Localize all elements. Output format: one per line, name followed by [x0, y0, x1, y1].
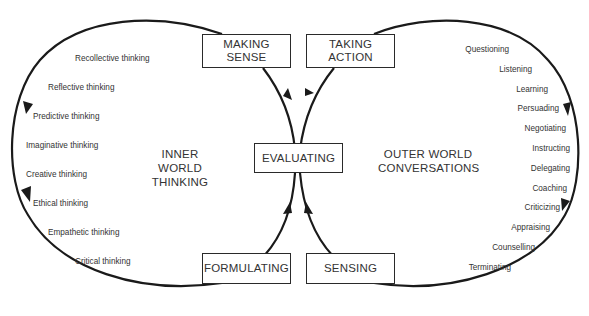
- left-item: Imaginative thinking: [26, 141, 98, 150]
- left-item: Critical thinking: [75, 257, 131, 266]
- left-item: Empathetic thinking: [48, 228, 119, 237]
- making-sense-label-line1: MAKING: [223, 38, 270, 51]
- evaluating-label: EVALUATING: [262, 152, 335, 165]
- taking-action-box: TAKING ACTION: [306, 34, 395, 68]
- left-item: Ethical thinking: [33, 199, 88, 208]
- inner-world-heading: INNER WORLD THINKING: [140, 147, 220, 189]
- taking-action-label-line1: TAKING: [329, 38, 372, 51]
- right-item: Persuading: [518, 104, 559, 113]
- arrow-icon: [283, 88, 292, 100]
- sensing-box: SENSING: [306, 253, 395, 284]
- right-item: Negotiating: [525, 124, 566, 133]
- right-item: Terminating: [469, 263, 511, 272]
- right-item: Counselling: [492, 243, 535, 252]
- left-item: Reflective thinking: [48, 83, 114, 92]
- arrow-icon: [23, 101, 33, 114]
- arrow-icon: [21, 186, 31, 202]
- arrow-icon: [563, 102, 571, 116]
- outer-world-heading: OUTER WORLD CONVERSATIONS: [378, 147, 478, 175]
- making-sense-box: MAKING SENSE: [202, 34, 291, 68]
- right-item: Listening: [499, 65, 532, 74]
- taking-action-label-line2: ACTION: [328, 51, 373, 64]
- left-item: Creative thinking: [26, 170, 87, 179]
- right-item: Criticizing: [525, 203, 561, 212]
- left-item: Predictive thinking: [33, 112, 99, 121]
- right-item: Questioning: [465, 45, 509, 54]
- left-item: Recollective thinking: [75, 54, 150, 63]
- right-item: Delegating: [531, 164, 570, 173]
- formulating-label: FORMULATING: [204, 262, 289, 275]
- right-item: Learning: [516, 85, 548, 94]
- evaluating-box: EVALUATING: [254, 143, 343, 173]
- making-sense-label-line2: SENSE: [227, 51, 267, 64]
- right-item: Coaching: [532, 184, 567, 193]
- sensing-label: SENSING: [324, 262, 377, 275]
- formulating-box: FORMULATING: [202, 253, 291, 284]
- right-item: Instructing: [532, 144, 570, 153]
- right-item: Appraising: [511, 223, 550, 232]
- arrow-icon: [305, 88, 314, 96]
